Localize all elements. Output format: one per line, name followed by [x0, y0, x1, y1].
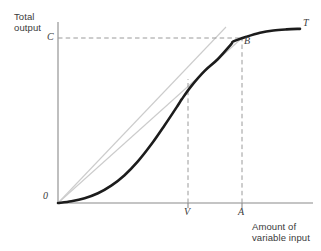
- y-axis-title-line2: output: [14, 22, 41, 33]
- total-product-figure: Totaloutput Amount ofvariable input C T …: [0, 0, 321, 251]
- x-axis-title-line1: Amount of: [252, 221, 296, 232]
- axes-group: [58, 22, 313, 203]
- tick-V-label: V: [184, 206, 190, 217]
- x-axis-title-line2: variable input: [252, 232, 310, 243]
- y-axis-title: Totaloutput: [14, 11, 41, 33]
- tangent-ray-at-V: [58, 27, 226, 203]
- point-B-label: B: [244, 35, 250, 46]
- rays-group: [58, 27, 242, 203]
- origin-label: 0: [43, 190, 48, 201]
- x-axis-ticks: [188, 203, 242, 208]
- total-product-curve: [58, 29, 300, 203]
- tick-A-label: A: [238, 206, 244, 217]
- output-level-C-label: C: [47, 31, 54, 42]
- y-axis-title-line1: Total: [14, 11, 35, 22]
- curve-name-T-label: T: [303, 17, 309, 28]
- x-axis-title: Amount ofvariable input: [252, 221, 310, 243]
